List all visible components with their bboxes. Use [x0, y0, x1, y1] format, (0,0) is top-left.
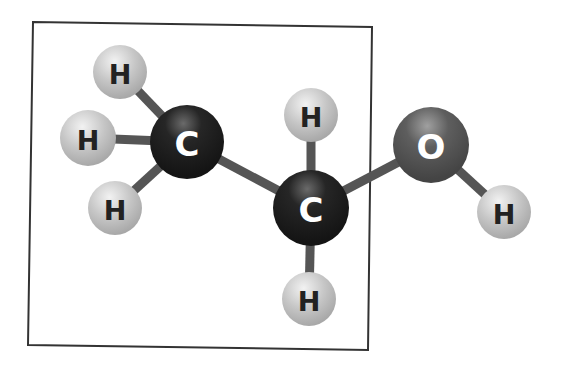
atom-label: H — [109, 59, 132, 90]
atom-c2: C — [273, 170, 349, 246]
atom-c1: C — [150, 105, 224, 179]
atom-h4: H — [284, 88, 338, 142]
atom-label: H — [104, 195, 127, 226]
atom-h3: H — [88, 181, 142, 235]
atom-label: H — [298, 286, 321, 317]
atom-o: O — [393, 107, 469, 183]
atom-label: H — [300, 102, 323, 133]
atom-label: C — [175, 124, 200, 164]
atom-label: H — [77, 125, 100, 156]
atom-h5: H — [282, 272, 336, 326]
atoms: HHHCHCHOH — [60, 45, 531, 326]
atom-h1: H — [93, 45, 147, 99]
atom-label: O — [417, 127, 446, 167]
atom-label: C — [299, 190, 324, 230]
atom-h6: H — [477, 185, 531, 239]
ethanol-molecule-diagram: HHHCHCHOH — [0, 0, 564, 367]
atom-label: H — [493, 199, 516, 230]
atom-h2: H — [60, 110, 116, 166]
